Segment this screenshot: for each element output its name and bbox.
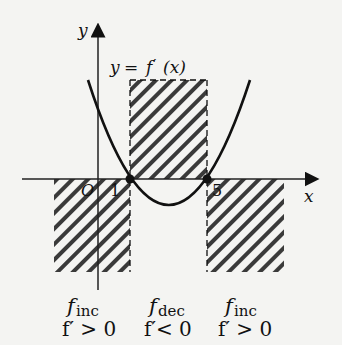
root-point-1 <box>126 175 135 184</box>
y-axis-label: y <box>77 20 88 40</box>
svg-text:′: ′ <box>153 56 157 74</box>
x-axis-label: x <box>304 186 314 206</box>
root-point-5 <box>203 175 212 184</box>
curve-equation-label: y = f ′ (x) <box>109 56 186 77</box>
region-caption-left: f inc f′ > 0 <box>62 294 116 341</box>
origin-label: O <box>81 181 94 200</box>
hatch-region-middle-top <box>130 80 207 179</box>
svg-text:(x): (x) <box>163 57 186 77</box>
root-label-5: 5 <box>212 181 222 200</box>
svg-text:f′< 0: f′< 0 <box>144 317 192 341</box>
svg-text:f′ > 0: f′ > 0 <box>218 317 272 341</box>
svg-text:y: y <box>109 57 120 77</box>
svg-text:f′ > 0: f′ > 0 <box>62 317 116 341</box>
region-caption-middle: f dec f′< 0 <box>144 294 192 341</box>
root-label-1: 1 <box>110 181 120 200</box>
region-caption-right: f inc f′ > 0 <box>218 294 272 341</box>
svg-text:=: = <box>124 57 138 77</box>
derivative-sign-diagram: y x O 1 5 y = f ′ (x) f inc f′ > 0 f dec… <box>0 0 342 345</box>
